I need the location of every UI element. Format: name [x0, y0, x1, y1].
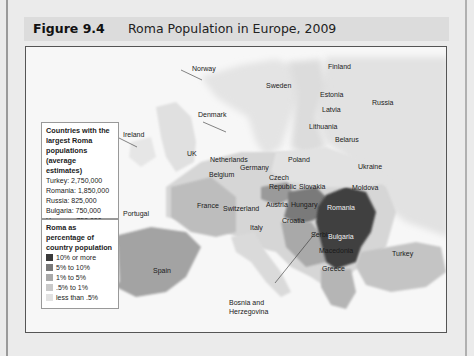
label-lithuania: Lithuania — [309, 123, 337, 130]
legend-largest-item: Romania: 1,850,000 — [46, 186, 114, 196]
swatch-less-than-0.5 — [46, 294, 53, 301]
legend-item-label: .5% to 1% — [56, 284, 88, 291]
label-belgium: Belgium — [209, 171, 234, 178]
legend-item-label: 1% to 5% — [56, 274, 86, 281]
legend-largest-item: Bulgaria: 750,000 — [46, 206, 114, 216]
page-rule-right — [465, 0, 467, 356]
label-ukraine: Ukraine — [358, 163, 382, 170]
page-rule-left — [6, 0, 8, 356]
swatch-5-to-10 — [46, 264, 53, 271]
label-romania: Romania — [327, 204, 355, 211]
figure-caption-bar: Figure 9.4 Roma Population in Europe, 20… — [24, 17, 449, 41]
legend-percentage-item: .5% to 1% — [46, 283, 114, 293]
label-belarus: Belarus — [335, 136, 359, 143]
label-estonia: Estonia — [320, 91, 343, 98]
legend-percentage-item: 1% to 5% — [46, 273, 114, 283]
legend-largest-item: Russia: 825,000 — [46, 196, 114, 206]
legend-percentage: Roma as percentage of country population… — [41, 219, 119, 309]
legend-largest-item: Turkey: 2,750,000 — [46, 176, 114, 186]
legend-item-label: 10% or more — [56, 254, 96, 261]
swatch-1-to-5 — [46, 274, 53, 281]
legend-largest-populations: Countries with the largest Roma populati… — [41, 122, 119, 219]
legend-percentage-item: 10% or more — [46, 253, 114, 263]
label-republic: Republic — [269, 183, 296, 190]
label-france: France — [197, 202, 219, 209]
label-turkey: Turkey — [392, 250, 413, 257]
legend-item-label: less than .5% — [56, 294, 98, 301]
label-bulgaria: Bulgaria — [328, 233, 354, 240]
legend-percentage-item: 5% to 10% — [46, 263, 114, 273]
map-figure: Countries with the largest Roma populati… — [25, 46, 447, 333]
swatch-10-or-more — [46, 254, 53, 261]
label-ireland: Ireland — [123, 131, 144, 138]
label-norway: Norway — [192, 65, 216, 72]
label-bosnia-line1: Bosnia and — [229, 299, 264, 306]
label-spain: Spain — [153, 267, 171, 274]
label-germany: Germany — [240, 164, 269, 171]
label-croatia: Croatia — [282, 217, 305, 224]
label-russia: Russia — [372, 99, 393, 106]
label-italy: Italy — [250, 224, 263, 231]
label-poland: Poland — [288, 156, 310, 163]
label-czech: Czech — [269, 174, 289, 181]
label-sweden: Sweden — [266, 82, 291, 89]
label-uk: UK — [187, 150, 197, 157]
label-greece: Greece — [322, 265, 345, 272]
label-slovakia: Slovakia — [299, 183, 325, 190]
label-switzerland: Switzerland — [223, 205, 259, 212]
legend-percentage-item: less than .5% — [46, 293, 114, 303]
label-latvia: Latvia — [322, 106, 341, 113]
label-portugal: Portugal — [123, 210, 149, 217]
legend-percentage-heading: Roma as percentage of country population — [46, 223, 114, 253]
label-bosnia-line2: Herzegovina — [229, 308, 268, 315]
legend-largest-heading: Countries with the largest Roma populati… — [46, 126, 114, 176]
swatch-0.5-to-1 — [46, 284, 53, 291]
label-macedonia: Macedonia — [319, 247, 353, 254]
label-moldova: Moldova — [352, 184, 378, 191]
label-netherlands: Netherlands — [210, 156, 248, 163]
figure-title: Roma Population in Europe, 2009 — [128, 21, 336, 36]
label-austria: Austria — [266, 201, 288, 208]
legend-item-label: 5% to 10% — [56, 264, 90, 271]
label-finland: Finland — [328, 63, 351, 70]
label-denmark: Denmark — [198, 111, 226, 118]
label-hungary: Hungary — [291, 201, 317, 208]
figure-number: Figure 9.4 — [33, 21, 105, 36]
